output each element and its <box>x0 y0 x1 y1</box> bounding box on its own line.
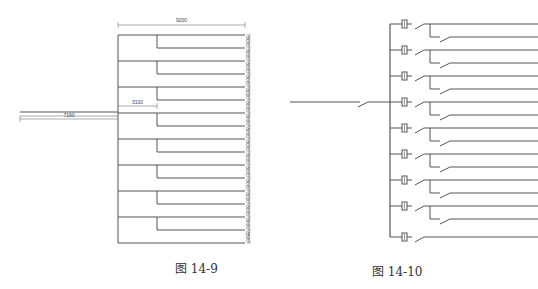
diagram-canvas: 9200310071603000300030003000300030003000… <box>0 0 538 289</box>
switch-icon <box>440 63 450 68</box>
switch-icon <box>415 76 424 81</box>
switch-icon <box>440 89 450 94</box>
row-spacing-label: 3000 <box>245 218 251 229</box>
switch-icon <box>440 167 450 172</box>
figure-14-10-caption: 图 14-10 <box>372 262 422 279</box>
top-width-label: 9200 <box>176 17 187 23</box>
switch-icon <box>440 193 450 198</box>
row-spacing-label: 3000 <box>245 179 251 190</box>
figure-14-9-wiring-diagram: 9200310071603000300030003000300030003000… <box>20 17 251 243</box>
row-spacing-label: 3000 <box>245 127 251 138</box>
row-spacing-label: 3000 <box>245 192 251 203</box>
switch-icon <box>440 115 450 120</box>
switch-icon <box>415 237 424 242</box>
row-spacing-label: 3000 <box>245 88 251 99</box>
switch-icon <box>415 180 424 185</box>
row-spacing-label: 3500 <box>245 231 251 242</box>
row-spacing-label: 3000 <box>245 36 251 47</box>
branch-offset-label: 3100 <box>132 99 143 105</box>
switch-icon <box>415 50 424 55</box>
figure-14-10-switch-diagram <box>290 20 538 242</box>
switch-icon <box>415 102 424 107</box>
row-spacing-label: 3000 <box>245 153 251 164</box>
row-spacing-label: 3000 <box>245 140 251 151</box>
switch-icon <box>415 128 424 133</box>
switch-icon <box>415 206 424 211</box>
switch-icon <box>440 141 450 146</box>
row-spacing-label: 3000 <box>245 101 251 112</box>
row-spacing-label: 3000 <box>245 62 251 73</box>
figure-14-9-caption: 图 14-9 <box>175 259 218 276</box>
switch-icon <box>440 37 450 42</box>
row-spacing-label: 3000 <box>245 49 251 60</box>
row-spacing-label: 3000 <box>245 114 251 125</box>
incoming-switch-icon <box>358 102 368 107</box>
switch-icon <box>415 24 424 29</box>
switch-icon <box>440 219 450 224</box>
feed-length-label: 7160 <box>63 112 74 118</box>
row-spacing-label: 3000 <box>245 205 251 216</box>
switch-icon <box>415 154 424 159</box>
row-spacing-label: 3000 <box>245 166 251 177</box>
row-spacing-label: 3000 <box>245 75 251 86</box>
